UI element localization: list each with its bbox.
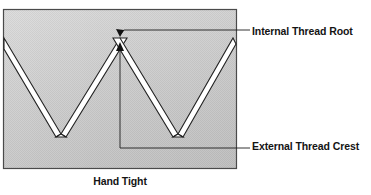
thread-cross-section-figure: Internal Thread Root External Thread Cre… <box>0 0 371 195</box>
figure-caption: Hand Tight <box>0 175 240 187</box>
annotation-label-internal-thread-root: Internal Thread Root <box>252 25 353 37</box>
annotation-label-external-thread-crest: External Thread Crest <box>252 140 359 152</box>
